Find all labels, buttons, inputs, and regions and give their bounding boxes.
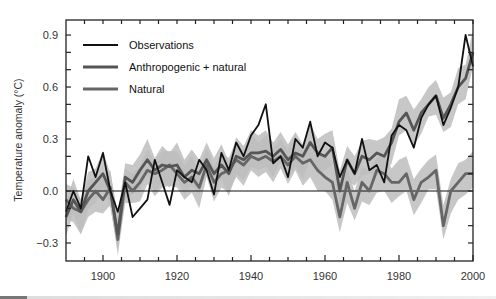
x-tick-label: 2000 (461, 270, 485, 282)
legend-label-natural: Natural (129, 83, 164, 95)
y-tick-label: 0.6 (43, 81, 58, 93)
x-tick-label: 1940 (239, 270, 263, 282)
x-tick-label: 1920 (165, 270, 189, 282)
legend-label-anthropogenic-natural: Anthropogenic + natural (129, 61, 246, 73)
y-tick-label: 0.9 (43, 29, 58, 41)
y-axis-title: Temperature anomaly (°C) (12, 78, 24, 201)
y-tick-label: −0.3 (36, 237, 58, 249)
x-tick-label: 1960 (313, 270, 337, 282)
legend: Observations Anthropogenic + natural Nat… (83, 39, 246, 95)
temperature-anomaly-chart: 190019201940196019802000 −0.30.00.30.60.… (0, 0, 496, 299)
x-tick-label: 1900 (91, 270, 115, 282)
y-tick-label: 0.0 (43, 185, 58, 197)
y-tick-label: 0.3 (43, 133, 58, 145)
legend-label-observations: Observations (129, 39, 194, 51)
x-tick-label: 1980 (387, 270, 411, 282)
